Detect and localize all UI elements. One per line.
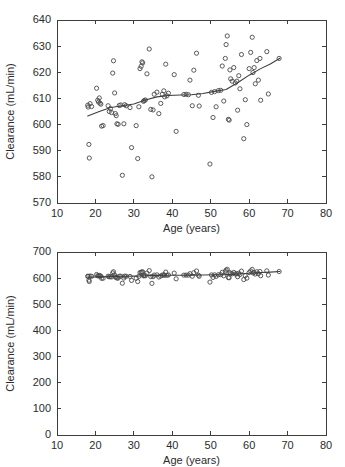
x-tick-label-bottom-3: 40 <box>166 439 178 451</box>
y-axis-title-top: Clearance (mL/min) <box>4 63 16 160</box>
data-point <box>94 86 98 90</box>
x-tick-label-top-2: 30 <box>128 207 140 219</box>
y-tick-label-bottom-4: 400 <box>33 324 51 336</box>
x-tick-label-bottom-2: 30 <box>128 439 140 451</box>
data-point <box>232 65 236 69</box>
y-axis-title-bottom: Clearance (mL/min) <box>4 295 16 392</box>
data-point <box>211 115 215 119</box>
data-point <box>236 108 240 112</box>
data-point <box>188 78 192 82</box>
y-tick-label-bottom-7: 700 <box>33 245 51 257</box>
data-point <box>266 273 270 277</box>
data-point <box>129 145 133 149</box>
data-point <box>192 68 196 72</box>
data-point <box>239 52 243 56</box>
data-point <box>164 62 168 66</box>
x-tick-label-bottom-5: 60 <box>243 439 255 451</box>
data-point <box>243 98 247 102</box>
y-tick-label-top-4: 610 <box>33 92 51 104</box>
data-point <box>223 56 227 60</box>
scatter-plot-bottom: 01002003004005006007001020304050607080Ag… <box>0 232 345 467</box>
data-point <box>157 111 161 115</box>
data-point <box>87 142 91 146</box>
figure-container: 5705805906006106206306401020304050607080… <box>0 0 345 467</box>
data-point <box>238 87 242 91</box>
data-point <box>214 105 218 109</box>
data-point <box>87 156 91 160</box>
data-point <box>120 281 124 285</box>
x-tick-label-top-0: 10 <box>51 207 63 219</box>
x-tick-label-top-7: 80 <box>320 207 332 219</box>
x-tick-label-bottom-1: 20 <box>89 439 101 451</box>
data-point <box>172 271 176 275</box>
data-point <box>194 51 198 55</box>
y-tick-label-top-2: 590 <box>33 144 51 156</box>
data-point <box>122 122 126 126</box>
x-tick-label-bottom-7: 80 <box>320 439 332 451</box>
trend-line-top <box>88 58 280 116</box>
data-point <box>259 98 263 102</box>
data-point <box>111 59 115 63</box>
x-tick-label-bottom-0: 10 <box>51 439 63 451</box>
data-point <box>224 42 228 46</box>
data-point <box>265 50 269 54</box>
y-tick-label-top-0: 570 <box>33 196 51 208</box>
data-point <box>174 129 178 133</box>
data-point <box>150 281 154 285</box>
data-point <box>208 280 212 284</box>
x-tick-label-top-5: 60 <box>243 207 255 219</box>
data-point <box>237 74 241 78</box>
data-point <box>249 50 253 54</box>
chart-panel-top: 5705805906006106206306401020304050607080… <box>0 0 345 235</box>
y-tick-label-top-6: 630 <box>33 40 51 52</box>
scatter-plot-top: 5705805906006106206306401020304050607080… <box>0 0 345 235</box>
data-point <box>225 34 229 38</box>
data-point <box>113 91 117 95</box>
data-point <box>258 56 262 60</box>
data-point <box>111 71 115 75</box>
y-tick-label-top-7: 640 <box>33 13 51 25</box>
x-tick-label-top-6: 70 <box>281 207 293 219</box>
data-point <box>129 278 133 282</box>
y-tick-label-bottom-6: 600 <box>33 272 51 284</box>
data-point <box>145 72 149 76</box>
data-point <box>106 104 110 108</box>
data-point <box>136 156 140 160</box>
data-point <box>247 67 251 71</box>
y-tick-label-bottom-2: 200 <box>33 376 51 388</box>
y-tick-label-top-1: 580 <box>33 170 51 182</box>
data-point <box>120 173 124 177</box>
data-point <box>252 65 256 69</box>
x-tick-label-top-1: 20 <box>89 207 101 219</box>
plot-frame-top <box>57 20 326 203</box>
x-tick-label-top-3: 40 <box>166 207 178 219</box>
data-point <box>222 99 226 103</box>
y-tick-label-bottom-5: 500 <box>33 298 51 310</box>
y-tick-label-bottom-3: 300 <box>33 350 51 362</box>
y-tick-label-bottom-1: 100 <box>33 402 51 414</box>
x-tick-label-bottom-6: 70 <box>281 439 293 451</box>
data-point <box>137 105 141 109</box>
data-point <box>150 175 154 179</box>
data-point <box>190 104 194 108</box>
data-point <box>250 35 254 39</box>
y-tick-label-top-5: 620 <box>33 66 51 78</box>
data-point <box>147 47 151 51</box>
data-point <box>266 92 270 96</box>
data-point <box>220 64 224 68</box>
data-point <box>197 104 201 108</box>
data-point <box>172 73 176 77</box>
x-axis-title-bottom: Age (years) <box>163 454 220 466</box>
data-point <box>208 162 212 166</box>
data-point <box>245 122 249 126</box>
data-point <box>253 82 257 86</box>
data-point <box>174 277 178 281</box>
data-point <box>242 137 246 141</box>
data-point <box>134 124 138 128</box>
data-point <box>159 101 163 105</box>
data-point <box>128 105 132 109</box>
x-tick-label-bottom-4: 50 <box>205 439 217 451</box>
x-tick-label-top-4: 50 <box>205 207 217 219</box>
data-point <box>256 78 260 82</box>
plot-frame-bottom <box>57 252 326 435</box>
